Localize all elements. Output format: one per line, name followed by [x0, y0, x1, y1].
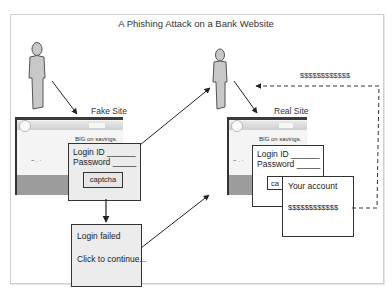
browser-button-icon — [19, 120, 31, 132]
money-flow-label: $$$$$$$$$$$$ — [300, 71, 350, 80]
page-scribble: ~ . · — [31, 157, 42, 163]
login-id-field[interactable]: Login ID ______ — [257, 149, 319, 159]
browser-titlebar — [229, 117, 307, 120]
click-to-continue-link[interactable]: Click to continue... — [77, 254, 146, 264]
captcha-button[interactable]: captcha — [83, 172, 123, 188]
account-dialog: Your account $$$$$$$$$$$$ — [282, 176, 354, 237]
fake-login-dialog: Login ID ______ Password _____ captcha — [68, 143, 141, 201]
fake-site-label: Fake Site — [91, 106, 127, 116]
browser-titlebar — [17, 117, 123, 120]
login-failed-dialog: Login failed Click to continue... — [71, 224, 142, 287]
account-balance: $$$$$$$$$$$$ — [288, 203, 338, 212]
account-title: Your account — [288, 181, 337, 191]
page-scribble: ~ . · — [233, 157, 244, 163]
password-field[interactable]: Password _____ — [257, 159, 320, 169]
real-site-label: Real Site — [274, 106, 309, 116]
login-id-field[interactable]: Login ID ______ — [73, 147, 135, 157]
password-field[interactable]: Password _____ — [73, 157, 136, 167]
promo-text: BIG on savings. — [75, 136, 117, 142]
browser-address-bar — [17, 121, 123, 130]
diagram-title: A Phishing Attack on a Bank Website — [0, 18, 392, 29]
login-failed-text: Login failed — [77, 231, 120, 241]
browser-tab — [279, 123, 293, 128]
browser-button-icon — [231, 120, 243, 132]
browser-tab — [89, 123, 105, 128]
promo-text: BIG on savings. — [259, 136, 301, 142]
